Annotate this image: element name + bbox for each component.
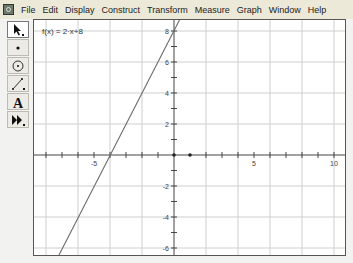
- fast-forward-icon: [10, 113, 26, 127]
- y-label-4: 4: [165, 90, 169, 97]
- function-label[interactable]: f(x) = 2·x+8: [42, 27, 83, 36]
- compass-tool[interactable]: [7, 57, 29, 74]
- y-label-6: 6: [165, 59, 169, 66]
- x-label-5: 5: [252, 160, 256, 167]
- y-label-neg2: -2: [163, 183, 169, 190]
- grid-lines: [34, 20, 346, 256]
- menu-help[interactable]: Help: [305, 5, 330, 15]
- svg-text:A: A: [13, 95, 24, 109]
- straightedge-tool[interactable]: [7, 75, 29, 92]
- right-margin: [346, 19, 353, 263]
- menu-construct[interactable]: Construct: [99, 5, 144, 15]
- coordinate-plane: -5 5 10 8 6 4 2 -2 -4 -6: [34, 20, 346, 256]
- bottom-margin: [33, 256, 353, 263]
- y-label-8: 8: [165, 28, 169, 35]
- y-label-neg6: -6: [163, 245, 169, 252]
- y-tick-labels: 8 6 4 2 -2 -4 -6: [163, 28, 169, 252]
- point-tool[interactable]: [7, 39, 29, 56]
- menu-measure[interactable]: Measure: [192, 5, 233, 15]
- menu-display[interactable]: Display: [62, 5, 98, 15]
- menu-file[interactable]: File: [18, 5, 39, 15]
- menu-edit[interactable]: Edit: [40, 5, 62, 15]
- menu-window[interactable]: Window: [266, 5, 304, 15]
- sketchpad-app-icon[interactable]: [3, 4, 14, 15]
- circle-icon: [10, 59, 26, 73]
- unit-point: [188, 153, 192, 157]
- y-label-neg4: -4: [163, 214, 169, 221]
- text-tool[interactable]: A: [7, 93, 29, 110]
- custom-tool[interactable]: [7, 111, 29, 128]
- graph-canvas[interactable]: -5 5 10 8 6 4 2 -2 -4 -6 f(x) = 2·x+8: [33, 19, 346, 256]
- x-label-neg5: -5: [91, 160, 97, 167]
- toolbox: A: [7, 21, 29, 129]
- axes: [34, 20, 346, 256]
- arrow-icon: [10, 23, 26, 37]
- menu-bar: File Edit Display Construct Transform Me…: [0, 0, 353, 19]
- selection-arrow-tool[interactable]: [7, 21, 29, 38]
- segment-icon: [10, 77, 26, 91]
- menu-graph[interactable]: Graph: [234, 5, 265, 15]
- function-graph-line: [58, 20, 180, 256]
- y-label-2: 2: [165, 121, 169, 128]
- menu-transform[interactable]: Transform: [144, 5, 191, 15]
- x-tick-labels: -5 5 10: [91, 160, 338, 167]
- text-icon: A: [10, 95, 26, 109]
- x-label-10: 10: [330, 160, 338, 167]
- origin-point: [172, 153, 176, 157]
- point-icon: [10, 41, 26, 55]
